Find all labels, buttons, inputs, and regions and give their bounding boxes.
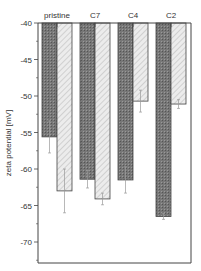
category-label: pristine (44, 11, 70, 20)
bar-pristine-series2 (57, 23, 72, 191)
bar-C7-series1 (80, 23, 95, 179)
bar-chart: -40-45-50-55-60-65-70 pristineC7C4C2 zet… (0, 0, 201, 271)
bar-C7-series2 (95, 23, 110, 199)
bar-C4-series2 (133, 23, 148, 101)
y-axis-label: zeta potential [mV] (4, 110, 13, 176)
y-tick-label: -45 (20, 56, 32, 65)
category-label: C4 (128, 11, 139, 20)
y-tick-label: -65 (20, 202, 32, 211)
bar-C2-series1 (156, 23, 171, 216)
y-tick-label: -60 (20, 165, 32, 174)
y-ticks-group: -40-45-50-55-60-65-70 (20, 19, 38, 260)
y-tick-label: -55 (20, 129, 32, 138)
bar-C2-series2 (171, 23, 186, 104)
y-tick-label: -70 (20, 238, 32, 247)
y-tick-label: -50 (20, 92, 32, 101)
bar-pristine-series1 (42, 23, 57, 137)
category-label: C7 (90, 11, 101, 20)
y-tick-label: -40 (20, 19, 32, 28)
bar-C4-series1 (118, 23, 133, 180)
category-label: C2 (166, 11, 177, 20)
bars-group (42, 23, 186, 216)
